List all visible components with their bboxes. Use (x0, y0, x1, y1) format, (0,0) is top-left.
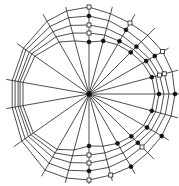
filled-dot-marker (145, 126, 149, 130)
open-square-marker (87, 161, 91, 165)
filled-dot-marker (129, 50, 133, 54)
open-square-marker (87, 153, 91, 157)
spoke-line (89, 94, 169, 140)
open-square-marker (162, 72, 166, 76)
center-hub (86, 91, 91, 96)
filled-dot-marker (136, 141, 140, 145)
open-square-marker (87, 23, 91, 27)
open-square-marker (140, 145, 144, 149)
filled-dot-marker (101, 39, 105, 43)
spoke-line (17, 44, 89, 95)
filled-dot-marker (173, 92, 177, 96)
filled-dot-marker (87, 169, 91, 173)
spoke-line (6, 94, 89, 109)
spoke-line (42, 94, 90, 176)
open-square-marker (158, 73, 162, 77)
filled-dot-marker (160, 134, 164, 138)
open-square-marker (87, 5, 91, 9)
open-square-marker (161, 50, 165, 54)
spoke-line (89, 94, 178, 118)
spoke-line (66, 7, 89, 94)
polar-web-diagram (0, 0, 179, 186)
filled-dot-marker (135, 45, 139, 49)
open-square-marker (128, 21, 132, 25)
filled-dot-marker (124, 28, 128, 32)
spoke-line (89, 7, 112, 94)
filled-dot-marker (157, 92, 161, 96)
filled-dot-marker (150, 109, 154, 113)
spokes-group (6, 5, 179, 184)
filled-dot-marker (130, 135, 134, 139)
spoke-line (65, 94, 89, 183)
spoke-line (6, 79, 89, 94)
filled-dot-marker (153, 54, 157, 58)
filled-dot-marker (118, 39, 122, 43)
filled-dot-marker (116, 142, 120, 146)
filled-dot-marker (87, 14, 91, 18)
filled-dot-marker (150, 75, 154, 79)
open-square-marker (109, 173, 113, 177)
spoke-line (89, 94, 112, 181)
open-square-marker (87, 178, 91, 182)
open-square-marker (87, 31, 91, 35)
filled-dot-marker (129, 165, 133, 169)
filled-dot-marker (87, 144, 91, 148)
filled-dot-marker (144, 59, 148, 63)
filled-dot-marker (87, 40, 91, 44)
markers-group (87, 5, 177, 182)
